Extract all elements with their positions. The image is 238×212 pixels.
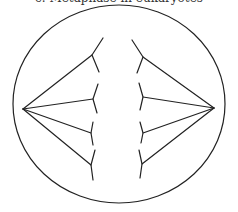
spindle-fiber-right-4 bbox=[142, 108, 214, 164]
chromosome-right-4 bbox=[139, 150, 142, 178]
chromosomes-left bbox=[91, 38, 103, 180]
spindle-fiber-right-3 bbox=[143, 108, 214, 133]
spindle-fiber-right-2 bbox=[143, 97, 214, 108]
chromosome-right-3 bbox=[140, 122, 143, 143]
spindle-fiber-left-3 bbox=[23, 109, 91, 133]
chromosome-left-2 bbox=[93, 84, 98, 113]
cell-membrane bbox=[13, 5, 225, 203]
chromosome-right-2 bbox=[139, 83, 143, 110]
chromosome-left-4 bbox=[91, 150, 95, 180]
chromosome-left-3 bbox=[91, 122, 93, 145]
chromosome-left-1 bbox=[92, 38, 103, 72]
chromosome-right-1 bbox=[132, 40, 143, 73]
spindle-fibers-left bbox=[23, 55, 93, 165]
spindle-fibers-right bbox=[142, 57, 214, 164]
spindle-fiber-left-4 bbox=[23, 109, 91, 165]
chromosomes-right bbox=[132, 40, 143, 178]
spindle-fiber-right-1 bbox=[143, 57, 214, 108]
cell-diagram bbox=[0, 0, 238, 212]
